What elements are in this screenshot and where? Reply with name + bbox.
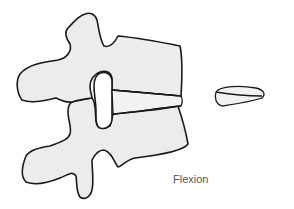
flexion-label: Flexion [173,173,208,185]
spine-flexion-diagram [0,0,294,209]
isolated-disc [215,86,264,106]
